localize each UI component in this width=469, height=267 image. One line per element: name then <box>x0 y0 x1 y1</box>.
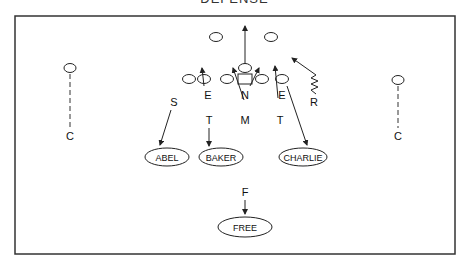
free-safety-label: F <box>242 186 249 198</box>
zone-free-label: FREE <box>233 223 257 233</box>
left-corner-label: C <box>66 130 74 142</box>
strong-safety-drop-arrow <box>160 110 171 145</box>
zone-charlie-label: CHARLIE <box>283 153 322 163</box>
zone-baker-label: BAKER <box>206 153 237 163</box>
left-tackle-label: T <box>206 114 213 126</box>
offense-receiver-right <box>265 33 278 42</box>
right-end-label: E <box>278 89 285 101</box>
offense-lineman-1 <box>183 75 196 84</box>
offense-lineman-4 <box>256 75 269 84</box>
offense-qb <box>239 64 252 73</box>
zone-abel-label: ABEL <box>155 153 178 163</box>
right-corner-label: C <box>394 130 402 142</box>
rover-route <box>292 58 318 94</box>
offense-lineman-3 <box>221 75 234 84</box>
offense-center <box>238 74 252 84</box>
left-end-label: E <box>204 89 211 101</box>
offense-receiver-left <box>210 33 223 42</box>
strong-safety-label: S <box>170 96 177 108</box>
offense-lineman-5 <box>276 75 289 84</box>
offense-wideout-right <box>392 76 404 85</box>
rover-label: R <box>310 96 318 108</box>
right-tackle-label: T <box>277 114 284 126</box>
right-end-drop-arrow <box>287 86 307 145</box>
nose-label: N <box>241 89 249 101</box>
offense-wideout-left <box>64 64 76 73</box>
mike-label: M <box>240 114 249 126</box>
play-diagram: E N E R S T M T ABEL BAKER CHARLIE C C F… <box>0 0 469 267</box>
